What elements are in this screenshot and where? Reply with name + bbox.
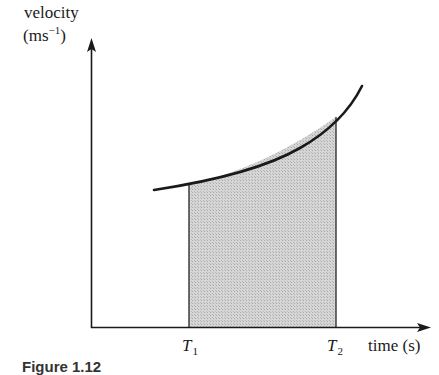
figure-caption: Figure 1.12 [22, 358, 101, 375]
t1-label: T1 [182, 337, 198, 354]
y-axis-label: velocity [24, 4, 79, 21]
y-axis-unit: (ms−1) [23, 27, 66, 44]
t1-subscript: 1 [192, 345, 198, 357]
t1-letter: T [182, 336, 191, 355]
t2-letter: T [327, 336, 336, 355]
t2-label: T2 [327, 337, 343, 354]
y-unit-open: (ms [23, 26, 49, 45]
y-unit-sup: −1 [49, 24, 61, 36]
y-unit-close: ) [60, 26, 66, 45]
y-axis-label-text: velocity [24, 3, 79, 22]
shaded-area [189, 117, 336, 327]
t2-subscript: 2 [337, 345, 343, 357]
x-axis-label: time (s) [368, 337, 420, 354]
